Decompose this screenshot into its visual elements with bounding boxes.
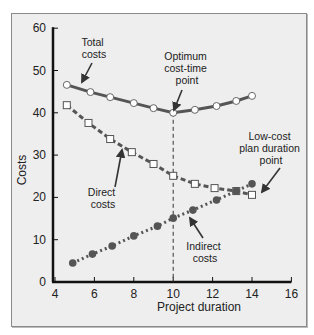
data-point [87, 89, 94, 96]
annotations: Total costs Optimum cost-time point Dire… [15, 36, 303, 314]
data-point [189, 206, 197, 214]
data-point [233, 97, 240, 104]
indirect-costs-arrow [190, 218, 203, 238]
data-point [128, 149, 135, 156]
x-tick-label: 16 [285, 287, 299, 301]
y-tick-label: 10 [33, 233, 47, 247]
data-point [169, 214, 177, 222]
x-tick-label: 4 [52, 287, 59, 301]
total-costs-series [63, 81, 255, 116]
indirect-costs-label: Indirect costs [186, 240, 223, 264]
data-point [211, 185, 218, 192]
low-cost-arrow [262, 168, 280, 192]
data-point [85, 119, 92, 126]
data-point [191, 180, 198, 187]
data-point [213, 103, 220, 110]
direct-costs-label: Direct costs [88, 186, 118, 210]
data-point [150, 105, 157, 112]
data-point [249, 191, 256, 198]
y-tick-label: 50 [33, 64, 47, 78]
x-tick-label: 8 [130, 287, 137, 301]
data-point [107, 94, 114, 101]
data-point [89, 250, 97, 258]
data-point [213, 196, 221, 204]
data-point [249, 92, 256, 99]
data-point [150, 160, 157, 167]
data-point [69, 259, 77, 267]
x-tick-label: 12 [206, 287, 220, 301]
x-axis-label: Project duration [157, 300, 241, 314]
data-point [107, 136, 114, 143]
series-group [63, 81, 255, 266]
data-point [130, 100, 137, 107]
optimum-arrow [174, 90, 182, 110]
data-point [248, 180, 256, 188]
y-axis-label: Costs [15, 155, 29, 186]
direct-costs-series [63, 102, 255, 199]
x-tick-label: 6 [91, 287, 98, 301]
optimum-point-label: Optimum cost-time point [164, 50, 210, 86]
data-point [63, 81, 70, 88]
data-point [232, 187, 240, 195]
x-tick-label: 10 [167, 287, 181, 301]
data-point [130, 232, 138, 240]
data-point [154, 222, 162, 230]
y-tick-label: 60 [33, 21, 47, 35]
low-cost-point-label: Low-cost plan duration point [239, 130, 303, 166]
data-point [170, 172, 177, 179]
total-costs-label: Total costs [81, 36, 106, 60]
data-point [170, 109, 177, 116]
y-tick-label: 0 [39, 275, 46, 289]
y-tick-label: 30 [33, 148, 47, 162]
cost-duration-chart: 010203040506046810121416 Total costs Opt… [0, 0, 314, 335]
y-tick-label: 40 [33, 106, 47, 120]
total-costs-arrow [82, 63, 92, 82]
x-tick-label: 14 [245, 287, 259, 301]
data-point [63, 102, 70, 109]
data-point [108, 242, 116, 250]
y-tick-label: 20 [33, 190, 47, 204]
direct-costs-arrow [115, 150, 122, 187]
data-point [191, 106, 198, 113]
